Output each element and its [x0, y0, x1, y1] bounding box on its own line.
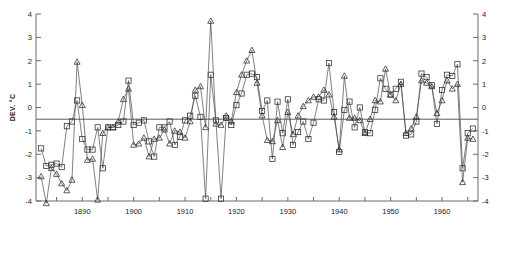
svg-text:1900: 1900: [125, 207, 142, 216]
svg-text:-2: -2: [482, 150, 489, 159]
svg-text:-1: -1: [25, 127, 32, 136]
svg-text:-3: -3: [25, 173, 32, 182]
svg-text:1930: 1930: [279, 207, 296, 216]
svg-text:-4: -4: [25, 197, 32, 206]
svg-text:1940: 1940: [331, 207, 348, 216]
chart-canvas: -4-3-2-101234 -4-3-2-101234 189019001910…: [0, 0, 509, 261]
svg-text:-2: -2: [25, 150, 32, 159]
svg-text:2: 2: [28, 57, 32, 66]
plot-frame: [36, 14, 478, 201]
svg-text:-4: -4: [482, 197, 489, 206]
svg-text:0: 0: [28, 103, 32, 112]
svg-text:0: 0: [482, 103, 486, 112]
svg-text:1960: 1960: [434, 207, 451, 216]
data-series-group: [38, 18, 476, 206]
svg-text:1890: 1890: [74, 207, 91, 216]
svg-text:-1: -1: [482, 127, 489, 136]
svg-text:4: 4: [28, 10, 32, 19]
svg-text:1: 1: [482, 80, 486, 89]
svg-text:3: 3: [482, 33, 486, 42]
x-axis-ticks: 18901900191019201930194019501960: [57, 197, 468, 216]
svg-text:3: 3: [28, 33, 32, 42]
svg-text:2: 2: [482, 57, 486, 66]
y-axis-right-ticks: -4-3-2-101234: [473, 10, 489, 206]
svg-text:4: 4: [482, 10, 486, 19]
chart-figure: DEV. °C -4-3-2-101234 -4-3-2-101234 1890…: [0, 0, 509, 261]
svg-text:1950: 1950: [382, 207, 399, 216]
series-triangles: [38, 18, 476, 206]
y-axis-left-ticks: -4-3-2-101234: [25, 10, 41, 206]
data-point-marker: [172, 128, 178, 133]
svg-text:-3: -3: [482, 173, 489, 182]
svg-text:1910: 1910: [177, 207, 194, 216]
svg-text:1: 1: [28, 80, 32, 89]
svg-text:1920: 1920: [228, 207, 245, 216]
